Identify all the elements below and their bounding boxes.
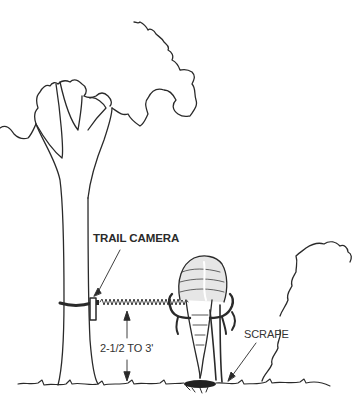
bush: [262, 242, 351, 381]
buck-deer: [169, 256, 235, 382]
scene-drawing: [0, 0, 361, 413]
scrape-patch: [184, 380, 216, 393]
trail-camera-label: TRAIL CAMERA: [93, 232, 179, 244]
scrape-leader-arrow: [228, 343, 256, 381]
mounting-height-label: 2-1/2 TO 3': [100, 342, 153, 354]
tree-crown: [0, 22, 197, 139]
ground-line: [18, 379, 330, 386]
camera-leader-arrow: [94, 250, 120, 296]
camera-beam: [100, 299, 188, 305]
illustration: TRAIL CAMERA 2-1/2 TO 3' SCRAPE: [0, 0, 361, 413]
camera-strap: [60, 303, 92, 305]
scrape-label: SCRAPE: [244, 328, 289, 340]
trail-camera-icon: [90, 298, 99, 320]
